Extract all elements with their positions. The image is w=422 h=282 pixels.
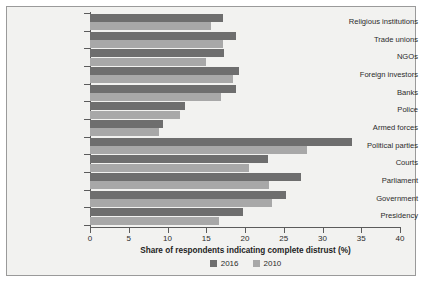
bar-2016 [90, 191, 286, 199]
category-label: Foreign investors [338, 70, 422, 79]
x-axis-tick-label: 5 [117, 234, 141, 244]
x-axis-tick [168, 228, 169, 233]
x-axis-tick-label: 0 [78, 234, 102, 244]
x-axis-tick-label: 30 [311, 234, 335, 244]
bar-2016 [90, 173, 301, 181]
x-axis-tick [206, 228, 207, 233]
category-label: Armed forces [338, 123, 422, 132]
x-axis-tick [361, 228, 362, 233]
bar-2010 [90, 58, 206, 66]
x-axis-tick-label: 15 [194, 234, 218, 244]
bar-2010 [90, 22, 211, 30]
bar-2016 [90, 155, 268, 163]
x-axis-tick [284, 228, 285, 233]
category-label: Trade unions [338, 35, 422, 44]
bar-2016 [90, 67, 239, 75]
category-label: Presidency [338, 211, 422, 220]
bar-2010 [90, 128, 159, 136]
bar-2016 [90, 138, 352, 146]
bar-2016 [90, 49, 224, 57]
x-axis-tick-label: 35 [349, 234, 373, 244]
category-label: Banks [338, 88, 422, 97]
legend-swatch-icon [210, 260, 217, 267]
x-axis-tick-label: 40 [388, 234, 412, 244]
bar-2010 [90, 199, 272, 207]
bar-2010 [90, 111, 180, 119]
legend-item: 2010 [253, 259, 282, 268]
bar-2016 [90, 208, 243, 216]
bar-2016 [90, 102, 185, 110]
x-axis-tick [323, 228, 324, 233]
x-axis-tick [90, 228, 91, 233]
bar-2010 [90, 75, 233, 83]
x-axis-tick-label: 20 [233, 234, 257, 244]
category-label: Parliament [338, 176, 422, 185]
bar-2016 [90, 32, 236, 40]
legend-label: 2016 [221, 259, 239, 268]
bar-2016 [90, 85, 236, 93]
x-axis-tick [400, 228, 401, 233]
bar-2010 [90, 164, 249, 172]
legend-item: 2016 [210, 259, 239, 268]
category-label: Police [338, 105, 422, 114]
category-label: NGOs [338, 52, 422, 61]
bar-2010 [90, 40, 223, 48]
bar-2010 [90, 146, 307, 154]
x-axis-tick-label: 10 [156, 234, 180, 244]
bar-2016 [90, 120, 163, 128]
chart-legend: 20162010 [90, 259, 401, 268]
x-axis-tick-label: 25 [272, 234, 296, 244]
category-label: Courts [338, 158, 422, 167]
legend-swatch-icon [253, 260, 260, 267]
x-axis-tick [245, 228, 246, 233]
x-axis-tick [129, 228, 130, 233]
bar-2010 [90, 93, 221, 101]
bar-2010 [90, 181, 269, 189]
x-axis-title: Share of respondents indicating complete… [90, 246, 401, 255]
bar-2016 [90, 14, 223, 22]
y-axis-tick [84, 225, 90, 226]
category-label: Government [338, 194, 422, 203]
bar-2010 [90, 217, 219, 225]
chart-screenshot: Religious institutionsTrade unionsNGOsFo… [0, 0, 422, 282]
legend-label: 2010 [264, 259, 282, 268]
category-label: Religious institutions [338, 17, 422, 26]
